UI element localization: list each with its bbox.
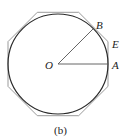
label-e: E [111,38,119,50]
label-a: A [111,59,119,71]
geometry-diagram: O A B E (b) [0,0,125,140]
radius-ob [58,29,93,64]
figure-caption: (b) [54,124,67,137]
label-b: B [96,19,103,31]
label-o: O [45,59,53,71]
